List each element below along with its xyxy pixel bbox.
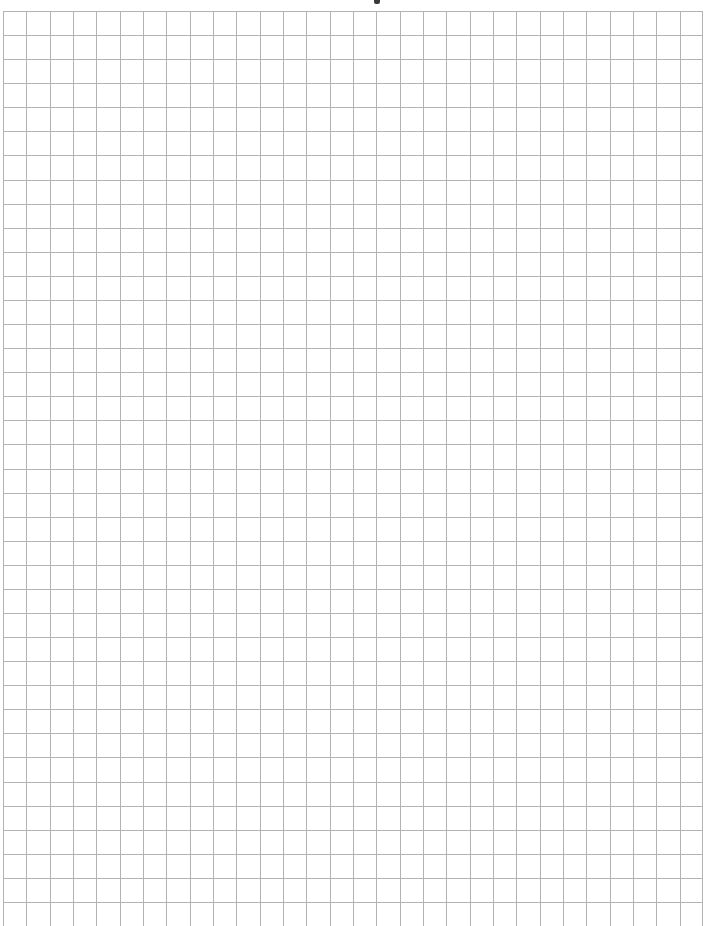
- grid-horizontal-line: [4, 396, 702, 397]
- grid-horizontal-line: [4, 444, 702, 445]
- grid-horizontal-line: [4, 420, 702, 421]
- grid-horizontal-line: [4, 83, 702, 84]
- grid-horizontal-line: [4, 372, 702, 373]
- grid-horizontal-line: [4, 469, 702, 470]
- graph-grid: [3, 11, 703, 926]
- grid-horizontal-line: [4, 131, 702, 132]
- grid-horizontal-line: [4, 902, 702, 903]
- grid-horizontal-line: [4, 757, 702, 758]
- grid-horizontal-line: [4, 589, 702, 590]
- grid-horizontal-line: [4, 685, 702, 686]
- grid-horizontal-line: [4, 782, 702, 783]
- grid-horizontal-line: [4, 854, 702, 855]
- grid-horizontal-line: [4, 348, 702, 349]
- grid-horizontal-line: [4, 155, 702, 156]
- grid-horizontal-line: [4, 661, 702, 662]
- grid-horizontal-line: [4, 830, 702, 831]
- grid-horizontal-line: [4, 878, 702, 879]
- grid-horizontal-line: [4, 613, 702, 614]
- grid-horizontal-line: [4, 806, 702, 807]
- grid-horizontal-line: [4, 637, 702, 638]
- grid-horizontal-line: [4, 107, 702, 108]
- grid-horizontal-line: [4, 300, 702, 301]
- grid-horizontal-line: [4, 59, 702, 60]
- grid-horizontal-line: [4, 204, 702, 205]
- grid-horizontal-line: [4, 228, 702, 229]
- grid-horizontal-line: [4, 276, 702, 277]
- cut-off-mark: [374, 0, 380, 4]
- grid-horizontal-line: [4, 709, 702, 710]
- grid-horizontal-line: [4, 493, 702, 494]
- graph-paper-page: [0, 0, 708, 926]
- grid-horizontal-line: [4, 565, 702, 566]
- grid-horizontal-line: [4, 733, 702, 734]
- grid-horizontal-line: [4, 252, 702, 253]
- grid-horizontal-line: [4, 517, 702, 518]
- grid-horizontal-line: [4, 35, 702, 36]
- grid-horizontal-line: [4, 541, 702, 542]
- grid-horizontal-line: [4, 180, 702, 181]
- grid-horizontal-line: [4, 324, 702, 325]
